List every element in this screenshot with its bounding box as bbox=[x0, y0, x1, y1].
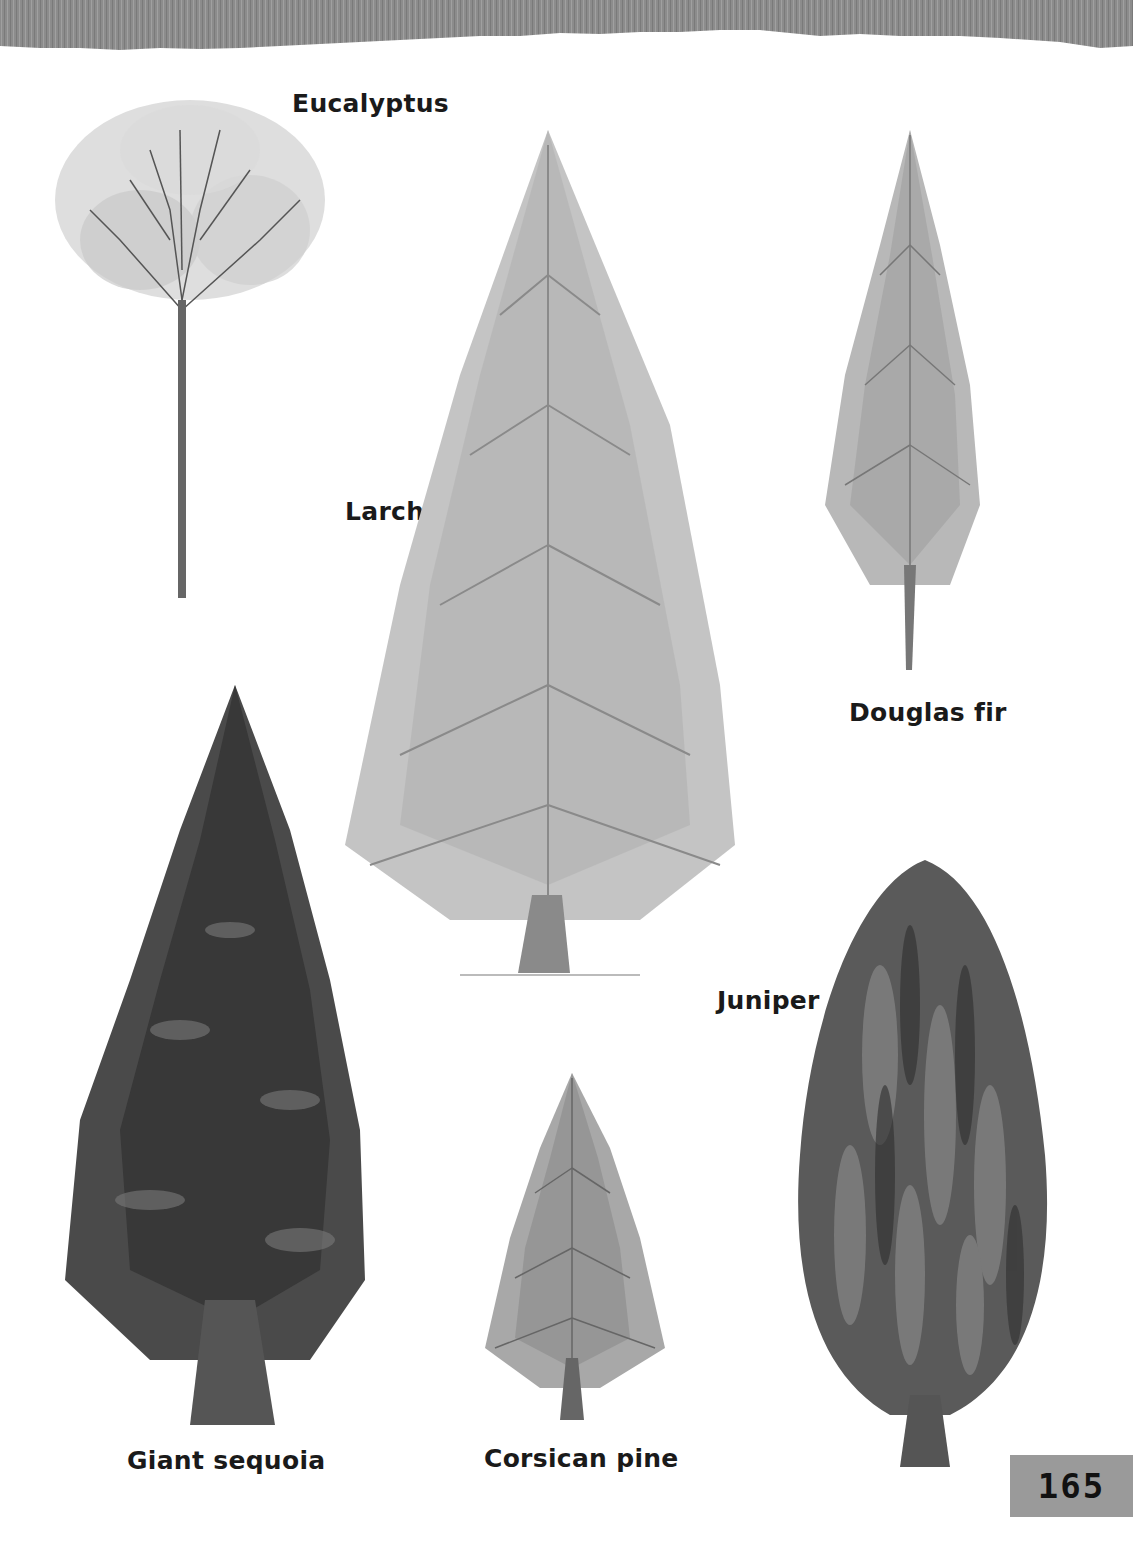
label-douglas-fir: Douglas fir bbox=[849, 698, 1007, 727]
torn-paper-header bbox=[0, 0, 1133, 60]
page-number: 165 bbox=[1038, 1466, 1105, 1506]
label-corsican-pine: Corsican pine bbox=[484, 1444, 679, 1473]
label-giant-sequoia: Giant sequoia bbox=[127, 1446, 325, 1475]
giant-sequoia-tree-illustration bbox=[60, 680, 370, 1430]
corsican-pine-tree-illustration bbox=[480, 1068, 670, 1423]
juniper-tree-illustration bbox=[790, 855, 1055, 1470]
eucalyptus-tree-illustration bbox=[50, 90, 335, 600]
page-number-badge: 165 bbox=[1010, 1455, 1133, 1517]
larch-tree-illustration bbox=[340, 125, 740, 980]
douglas-fir-tree-illustration bbox=[820, 125, 990, 675]
